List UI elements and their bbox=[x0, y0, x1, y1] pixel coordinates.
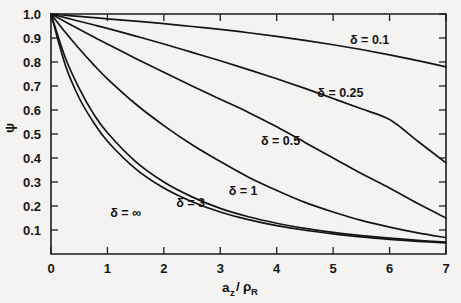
chart-canvas: 01234567 0.10.20.30.40.50.60.70.80.91.0 … bbox=[0, 0, 461, 303]
y-tick-label: 0.1 bbox=[23, 223, 41, 238]
x-tick-label: 0 bbox=[47, 261, 54, 276]
curve-label: δ = 0.5 bbox=[261, 134, 300, 148]
x-tick-label: 4 bbox=[273, 261, 281, 276]
x-tick-label: 5 bbox=[330, 261, 337, 276]
y-tick-label: 0.6 bbox=[23, 103, 41, 118]
x-tick-label: 6 bbox=[386, 261, 393, 276]
x-tick-labels: 01234567 bbox=[47, 261, 449, 276]
y-tick-label: 0.3 bbox=[23, 175, 41, 190]
curve-label: δ = 0.25 bbox=[317, 86, 363, 100]
x-tick-label: 2 bbox=[160, 261, 167, 276]
x-axis-title: a z / ρ R bbox=[222, 279, 258, 298]
y-tick-label: 0.2 bbox=[23, 199, 41, 214]
y-tick-label: 0.7 bbox=[23, 79, 41, 94]
y-tick-label: 0.8 bbox=[23, 55, 41, 70]
curve-label: δ = 3 bbox=[176, 196, 205, 210]
y-tick-labels: 0.10.20.30.40.50.60.70.80.91.0 bbox=[23, 7, 42, 238]
curve-label: δ = ∞ bbox=[110, 206, 141, 220]
x-tick-label: 7 bbox=[442, 261, 449, 276]
curve-labels: δ = 0.1δ = 0.25δ = 0.5δ = 1δ = 3δ = ∞ bbox=[110, 33, 389, 220]
y-tick-label: 1.0 bbox=[23, 7, 41, 22]
y-axis-title: ψ bbox=[2, 123, 17, 133]
y-tick-label: 0.9 bbox=[23, 31, 41, 46]
chart-figure: 01234567 0.10.20.30.40.50.60.70.80.91.0 … bbox=[0, 0, 461, 303]
curve--1 bbox=[51, 14, 446, 238]
curve-label: δ = 0.1 bbox=[350, 33, 389, 47]
y-tick-label: 0.5 bbox=[23, 127, 41, 142]
x-axis-title-a: a bbox=[222, 280, 230, 295]
x-axis-title-slash: / bbox=[236, 279, 240, 294]
y-tick-label: 0.4 bbox=[23, 151, 42, 166]
curve-label: δ = 1 bbox=[229, 184, 258, 198]
x-tick-label: 1 bbox=[104, 261, 111, 276]
x-tick-label: 3 bbox=[217, 261, 224, 276]
x-axis-title-r-sub: R bbox=[251, 286, 258, 297]
x-axis-title-z-sub: z bbox=[230, 287, 235, 298]
